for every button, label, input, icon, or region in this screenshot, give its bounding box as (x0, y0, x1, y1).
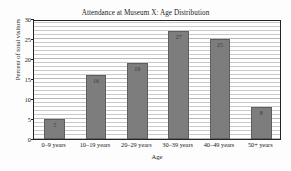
bar (210, 39, 231, 139)
bar-value-label: 5 (44, 122, 65, 128)
x-axis-title: Age (33, 153, 281, 160)
bar-group: 25 (210, 21, 231, 139)
bar (86, 75, 107, 139)
y-tick-label: 30 (11, 17, 31, 23)
x-tick-label: 30–39 years (157, 142, 198, 148)
y-tick-label: 20 (11, 57, 31, 63)
plot-area: 5161927258 (33, 20, 281, 140)
y-tick-label: 10 (11, 97, 31, 103)
bar-value-label: 27 (168, 34, 189, 40)
x-tick-label: 10–19 years (74, 142, 115, 148)
bar (127, 63, 148, 139)
y-axis-ticks: 051015202530 (8, 20, 31, 140)
y-tick-label: 15 (11, 77, 31, 83)
bar-value-label: 19 (127, 66, 148, 72)
bars-layer: 5161927258 (34, 21, 280, 139)
bar-group: 19 (127, 21, 148, 139)
x-tick-label: 20–29 years (116, 142, 157, 148)
y-tick-label: 5 (11, 117, 31, 123)
bar (168, 31, 189, 139)
chart-title: Attendance at Museum X: Age Distribution (0, 9, 291, 17)
x-tick-label: 0–9 years (33, 142, 74, 148)
bar-value-label: 16 (86, 78, 107, 84)
bar-group: 8 (251, 21, 272, 139)
y-tick-label: 25 (11, 37, 31, 43)
y-tick-label: 0 (11, 137, 31, 143)
bar-value-label: 25 (210, 42, 231, 48)
bar-group: 16 (86, 21, 107, 139)
x-tick-label: 50+ years (240, 142, 281, 148)
x-tick-label: 40–49 years (198, 142, 239, 148)
bar-group: 27 (168, 21, 189, 139)
bar-value-label: 8 (251, 110, 272, 116)
bar-group: 5 (44, 21, 65, 139)
bar-chart-figure: Attendance at Museum X: Age Distribution… (0, 0, 291, 171)
